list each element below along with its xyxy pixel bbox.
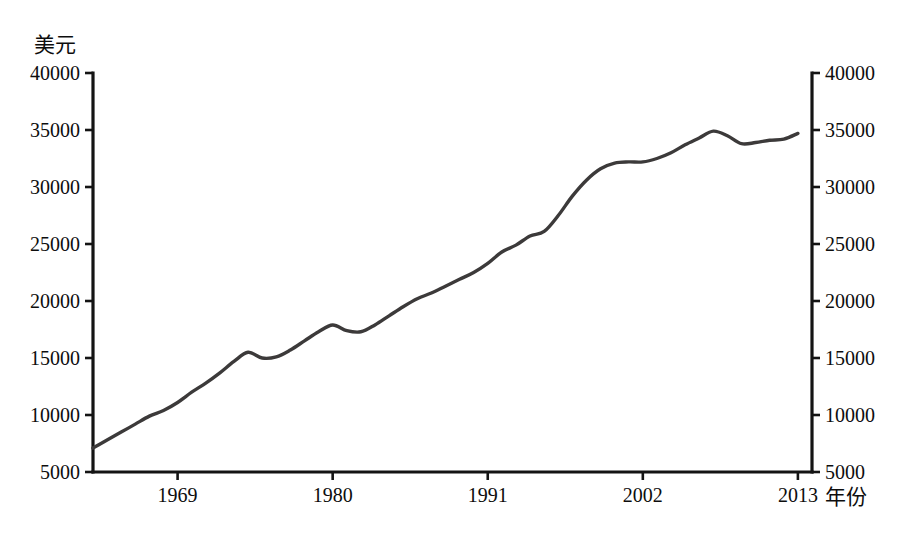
y-tick-label-left: 20000 [30, 290, 80, 312]
data-series-line [93, 131, 798, 448]
y-tick-label-left: 35000 [30, 119, 80, 141]
x-tick-label: 1969 [158, 484, 198, 506]
y-tick-label-right: 40000 [825, 62, 875, 84]
y-tick-label-left: 10000 [30, 404, 80, 426]
y-axis-title: 美元 [34, 33, 76, 57]
x-tick-label: 2002 [623, 484, 663, 506]
x-tick-label: 1980 [313, 484, 353, 506]
x-tick-label: 1991 [468, 484, 508, 506]
y-tick-label-right: 35000 [825, 119, 875, 141]
y-tick-label-left: 30000 [30, 176, 80, 198]
y-tick-label-left: 25000 [30, 233, 80, 255]
y-tick-label-right: 20000 [825, 290, 875, 312]
y-tick-label-right: 10000 [825, 404, 875, 426]
y-tick-label-left: 15000 [30, 347, 80, 369]
y-tick-label-right: 15000 [825, 347, 875, 369]
x-axis-title: 年份 [825, 485, 867, 509]
line-chart: 5000500010000100001500015000200002000025… [0, 0, 901, 543]
chart-container: 5000500010000100001500015000200002000025… [0, 0, 901, 543]
y-tick-label-right: 30000 [825, 176, 875, 198]
y-tick-label-left: 40000 [30, 62, 80, 84]
x-tick-label: 2013 [778, 484, 818, 506]
y-tick-label-left: 5000 [40, 461, 80, 483]
y-tick-label-right: 25000 [825, 233, 875, 255]
y-tick-label-right: 5000 [825, 461, 865, 483]
